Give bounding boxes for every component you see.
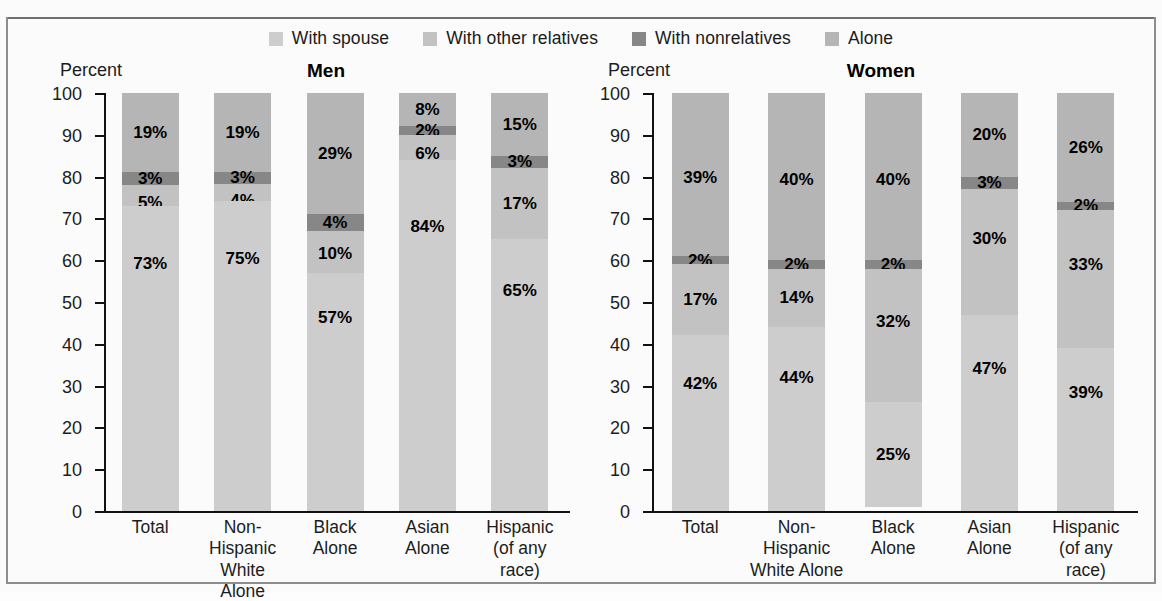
y-tick-label-70: 70 bbox=[62, 209, 82, 230]
stacked-bar[interactable]: 40%2%32%25% bbox=[865, 93, 922, 511]
x-axis-label-line1: Total bbox=[132, 517, 169, 537]
stacked-bar[interactable]: 40%2%14%44% bbox=[768, 93, 825, 511]
bar-segment-with-other-relatives[interactable]: 17% bbox=[672, 264, 729, 335]
x-axis-label-line1: Non-Hispanic bbox=[209, 517, 276, 558]
x-axis-label: Hispanic(of any race) bbox=[1038, 517, 1134, 581]
bar-segment-with-nonrelatives[interactable]: 2% bbox=[672, 256, 729, 264]
bar-segment-alone[interactable]: 29% bbox=[307, 93, 364, 214]
bar-group-women: 39%2%17%42%40%2%14%44%40%2%32%25%20%3%30… bbox=[652, 93, 1134, 511]
legend-item-alone: Alone bbox=[825, 28, 893, 49]
bar-segment-label: 40% bbox=[780, 171, 814, 188]
bar-segment-with-other-relatives[interactable]: 14% bbox=[768, 269, 825, 328]
bar-segment-with-nonrelatives[interactable]: 2% bbox=[865, 260, 922, 268]
stacked-bar[interactable]: 29%4%10%57% bbox=[307, 93, 364, 511]
bar-segment-with-spouse[interactable]: 75% bbox=[214, 201, 271, 511]
bar-segment-with-nonrelatives[interactable]: 3% bbox=[491, 156, 548, 169]
bar-segment-with-spouse[interactable]: 25% bbox=[865, 402, 922, 507]
bar-segment-with-other-relatives[interactable]: 32% bbox=[865, 269, 922, 403]
bar-segment-label: 26% bbox=[1069, 139, 1103, 156]
bar-segment-with-spouse[interactable]: 84% bbox=[399, 160, 456, 511]
bar-segment-with-spouse[interactable]: 47% bbox=[961, 315, 1018, 511]
y-tick-20: 20 bbox=[643, 427, 652, 429]
stacked-bar[interactable]: 20%3%30%47% bbox=[961, 93, 1018, 511]
x-axis-label: Non-HispanicWhite Alone bbox=[748, 517, 844, 581]
y-tick-90: 90 bbox=[95, 135, 104, 137]
bar-segment-alone[interactable]: 15% bbox=[491, 93, 548, 156]
x-axis-labels-women: Total Non-HispanicWhite AloneBlackAloneA… bbox=[652, 517, 1134, 581]
bar-segment-label: 19% bbox=[226, 124, 260, 141]
bar-segment-with-spouse[interactable]: 73% bbox=[122, 206, 179, 511]
right-border bbox=[1154, 17, 1156, 584]
bar-segment-label: 44% bbox=[780, 369, 814, 386]
x-axis-label: Hispanic(of any race) bbox=[474, 517, 566, 601]
bar-segment-with-nonrelatives[interactable]: 2% bbox=[1057, 202, 1114, 210]
bar-segment-label: 65% bbox=[503, 282, 537, 299]
x-axis-label-line2: Alone bbox=[289, 538, 381, 559]
bar-segment-with-nonrelatives[interactable]: 3% bbox=[122, 172, 179, 185]
y-tick-label-10: 10 bbox=[62, 460, 82, 481]
stacked-bar[interactable]: 8%2%6%84% bbox=[399, 93, 456, 511]
stacked-bar[interactable]: 26%2%33%39% bbox=[1057, 93, 1114, 511]
bar-slot: 19%3%4%75% bbox=[196, 93, 288, 511]
y-tick-90: 90 bbox=[643, 135, 652, 137]
x-axis-label-line1: Black bbox=[872, 517, 915, 537]
bar-segment-with-other-relatives[interactable]: 30% bbox=[961, 189, 1018, 314]
bar-segment-alone[interactable]: 19% bbox=[214, 93, 271, 172]
bar-segment-with-spouse[interactable]: 39% bbox=[1057, 348, 1114, 511]
bar-slot: 39%2%17%42% bbox=[652, 93, 748, 511]
bar-segment-label: 20% bbox=[972, 126, 1006, 143]
bar-segment-with-spouse[interactable]: 44% bbox=[768, 327, 825, 511]
y-tick-40: 40 bbox=[95, 344, 104, 346]
stacked-bar[interactable]: 15%3%17%65% bbox=[491, 93, 548, 511]
chart-title-men: Men bbox=[52, 60, 572, 82]
bar-segment-with-spouse[interactable]: 57% bbox=[307, 273, 364, 511]
bar-segment-with-other-relatives[interactable]: 4% bbox=[214, 184, 271, 201]
bar-segment-with-nonrelatives[interactable]: 3% bbox=[961, 177, 1018, 190]
bar-segment-with-other-relatives[interactable]: 33% bbox=[1057, 210, 1114, 348]
bar-segment-with-spouse[interactable]: 65% bbox=[491, 239, 548, 511]
y-tick-70: 70 bbox=[643, 218, 652, 220]
bar-segment-alone[interactable]: 40% bbox=[865, 93, 922, 260]
bar-segment-with-other-relatives[interactable]: 6% bbox=[399, 135, 456, 160]
bar-segment-alone[interactable]: 39% bbox=[672, 93, 729, 256]
stacked-bar[interactable]: 19%3%5%73% bbox=[122, 93, 179, 511]
y-tick-label-50: 50 bbox=[610, 293, 630, 314]
bar-segment-alone[interactable]: 19% bbox=[122, 93, 179, 172]
bar-slot: 19%3%5%73% bbox=[104, 93, 196, 511]
x-axis-label: Non-HispanicWhite Alone bbox=[196, 517, 288, 601]
bar-segment-alone[interactable]: 40% bbox=[768, 93, 825, 260]
plot-area-women: 1009080706050403020100 39%2%17%42%40%2%1… bbox=[652, 93, 1134, 511]
legend-swatch-with-nonrelatives bbox=[632, 32, 646, 46]
bar-segment-with-spouse[interactable]: 42% bbox=[672, 335, 729, 511]
bar-segment-with-nonrelatives[interactable]: 2% bbox=[768, 260, 825, 268]
bar-segment-with-other-relatives[interactable]: 17% bbox=[491, 168, 548, 239]
bar-segment-with-nonrelatives[interactable]: 2% bbox=[399, 126, 456, 134]
bar-segment-with-nonrelatives[interactable]: 4% bbox=[307, 214, 364, 231]
bar-segment-label: 47% bbox=[972, 360, 1006, 377]
bar-segment-with-nonrelatives[interactable]: 3% bbox=[214, 172, 271, 185]
legend-swatch-alone bbox=[825, 32, 839, 46]
y-tick-label-20: 20 bbox=[62, 418, 82, 439]
bar-slot: 40%2%14%44% bbox=[748, 93, 844, 511]
legend-item-with-spouse: With spouse bbox=[269, 28, 389, 49]
bar-segment-with-other-relatives[interactable]: 5% bbox=[122, 185, 179, 206]
y-tick-0: 0 bbox=[643, 511, 652, 513]
y-tick-label-0: 0 bbox=[72, 502, 82, 523]
x-axis-label-line1: Black bbox=[314, 517, 357, 537]
stacked-bar[interactable]: 39%2%17%42% bbox=[672, 93, 729, 511]
stacked-bar[interactable]: 19%3%4%75% bbox=[214, 93, 271, 511]
bar-slot: 15%3%17%65% bbox=[474, 93, 566, 511]
y-tick-0: 0 bbox=[95, 511, 104, 513]
y-tick-label-0: 0 bbox=[620, 502, 630, 523]
bar-segment-label: 17% bbox=[503, 195, 537, 212]
bar-segment-with-other-relatives[interactable]: 10% bbox=[307, 231, 364, 273]
y-tick-label-10: 10 bbox=[610, 460, 630, 481]
bar-segment-alone[interactable]: 26% bbox=[1057, 93, 1114, 202]
x-axis-label-line2: White Alone bbox=[748, 560, 844, 581]
bar-segment-label: 30% bbox=[972, 230, 1006, 247]
bar-segment-alone[interactable]: 20% bbox=[961, 93, 1018, 177]
y-tick-label-30: 30 bbox=[610, 376, 630, 397]
x-axis-label-line1: Hispanic bbox=[1052, 517, 1119, 537]
chart-legend: With spouse With other relatives With no… bbox=[0, 28, 1162, 49]
bar-slot: 26%2%33%39% bbox=[1038, 93, 1134, 511]
